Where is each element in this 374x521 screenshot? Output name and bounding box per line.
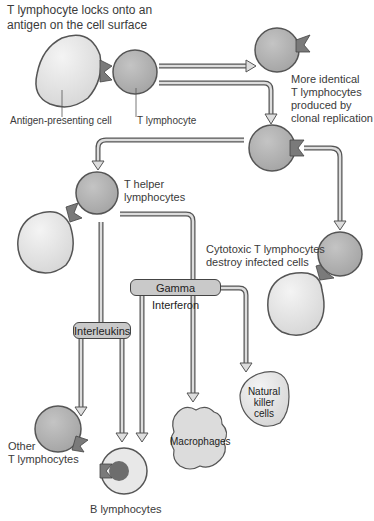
antigen-presenting-cell (36, 35, 101, 107)
arrow-to-other-t (75, 339, 87, 416)
nk-line-1: Natural (244, 386, 284, 397)
arrow-to-t-helper (92, 140, 244, 170)
t-helper-cell (76, 172, 118, 214)
nk-line-2: killer (244, 397, 284, 408)
arrow-helper-to-gamma (120, 214, 193, 280)
arrow-gamma-to-b (136, 296, 148, 442)
gamma-interferon-box: Gamma Interferon (130, 279, 221, 296)
t-helper-line-2: lymphocytes (124, 191, 185, 204)
label-macrophages: Macrophages (170, 436, 228, 447)
receptor-icon (100, 60, 112, 82)
clone-t-lymphocyte-cell (255, 28, 299, 72)
cytotoxic-line-1: Cytotoxic T lymphocytes (206, 243, 325, 256)
helper-apc-cell (18, 212, 73, 273)
clonal-line-3: produced by (291, 99, 373, 112)
t-lymphocyte-cell (113, 50, 157, 94)
center-t-lymphocyte-cell (249, 125, 295, 171)
other-t-line-1: Other (8, 440, 79, 453)
label-clonal-replication: More identical T lymphocytes produced by… (291, 73, 373, 125)
label-t-lymphocyte: T lymphocyte (137, 114, 196, 127)
infected-cell (268, 273, 324, 335)
nk-line-3: cells (244, 408, 284, 419)
receptor-icon (290, 140, 304, 156)
clonal-line-2: T lymphocytes (291, 86, 373, 99)
cytotoxic-line-2: destroy infected cells (206, 256, 325, 269)
other-t-line-2: T lymphocytes (8, 453, 79, 466)
arrow-to-clone (159, 60, 256, 72)
label-antigen-presenting-cell: Antigen-presenting cell (10, 114, 112, 127)
receptor-icon (296, 35, 310, 52)
label-natural-killer: Natural killer cells (244, 386, 284, 419)
clonal-line-1: More identical (291, 73, 373, 86)
arrow-to-cytotoxic (304, 148, 346, 230)
clonal-line-4: clonal replication (291, 112, 373, 125)
arrow-interleukins-to-b (116, 339, 128, 442)
label-cytotoxic: Cytotoxic T lymphocytes destroy infected… (206, 243, 325, 269)
interleukins-box: Interleukins (73, 322, 131, 339)
arrow-gamma-to-nk (221, 288, 252, 372)
title-line-2: antigen on the cell surface (7, 18, 152, 33)
title-line-1: T lymphocyte locks onto an (7, 3, 152, 18)
label-t-helper: T helper lymphocytes (124, 178, 185, 204)
diagram-title: T lymphocyte locks onto an antigen on th… (7, 3, 152, 33)
label-other-t: Other T lymphocytes (8, 440, 79, 466)
label-b-lymphocytes: B lymphocytes (90, 503, 162, 516)
t-helper-line-1: T helper (124, 178, 185, 191)
